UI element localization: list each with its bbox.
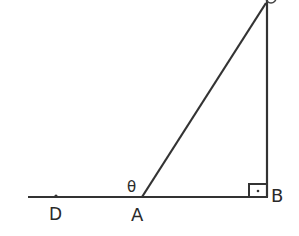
point-c-marker [266,0,276,3]
label-a: A [131,204,144,225]
point-d-marker [54,194,57,197]
label-d: D [49,204,62,224]
right-angle-dot [257,190,260,193]
triangle-diagram: D A B θ [0,0,299,236]
hypotenuse-ac [142,3,266,197]
label-b: B [271,185,283,206]
angle-theta-label: θ [127,178,136,196]
